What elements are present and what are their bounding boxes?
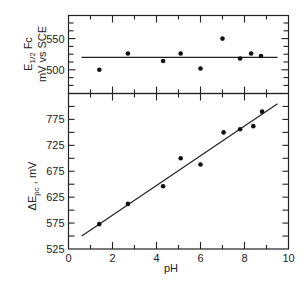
- data-point: [97, 222, 102, 227]
- data-point: [161, 184, 166, 189]
- bottom-ylabel-suffix: , mV: [26, 161, 38, 187]
- data-point: [259, 54, 264, 59]
- data-point: [198, 162, 203, 167]
- top-panel: 500550 E1/2 Fc mV vs SCE: [22, 16, 289, 94]
- top-panel-frame: [69, 16, 289, 94]
- bottom-y-tick-label: 625: [46, 191, 64, 203]
- bottom-y-tick-label: 675: [46, 165, 64, 177]
- bottom-y-tick-label: 725: [46, 139, 64, 151]
- data-point: [249, 51, 254, 56]
- bottom-fit-line: [82, 104, 278, 236]
- data-point: [126, 51, 131, 56]
- x-tick-label: 8: [241, 252, 247, 264]
- chart-figure: 500550 E1/2 Fc mV vs SCE 525575625675725…: [0, 0, 308, 290]
- bottom-y-axis-title: ΔEpc , mV: [26, 161, 41, 210]
- top-ylabel-suffix: Fc: [22, 37, 34, 53]
- bottom-panel: 525575625675725775 0246810 ΔEpc , mV pH: [26, 94, 295, 275]
- bottom-y-tick-label: 575: [46, 217, 64, 229]
- top-ylabel-E: E: [22, 64, 34, 71]
- data-point: [260, 109, 265, 114]
- top-data-points: [97, 36, 263, 72]
- data-point: [238, 56, 243, 61]
- x-tick-label: 10: [282, 252, 294, 264]
- top-y-tick-label: 500: [46, 64, 64, 76]
- top-ylabel-line2: mV vs SCE: [36, 26, 48, 82]
- data-point: [198, 66, 203, 71]
- x-tick-label: 4: [153, 252, 159, 264]
- data-point: [251, 124, 256, 129]
- data-point: [178, 156, 183, 161]
- data-point: [126, 202, 131, 207]
- x-axis-title: pH: [164, 262, 178, 274]
- bottom-y-tick-label: 525: [46, 243, 64, 255]
- top-y-tick-labels: 500550: [46, 33, 64, 76]
- data-point: [161, 59, 166, 64]
- x-tick-label: 0: [65, 252, 71, 264]
- top-y-tick-label: 550: [46, 33, 64, 45]
- top-y-axis-title: E1/2 Fc mV vs SCE: [22, 26, 48, 82]
- svg-text:ΔEpc , mV: ΔEpc , mV: [26, 161, 41, 210]
- top-panel-ticks: [69, 16, 289, 94]
- bottom-ylabel-sub: pc: [32, 187, 41, 195]
- data-point: [238, 127, 243, 132]
- x-tick-label: 6: [197, 252, 203, 264]
- data-point: [220, 36, 225, 41]
- x-tick-label: 2: [109, 252, 115, 264]
- svg-text:E1/2 Fc: E1/2 Fc: [22, 37, 37, 71]
- x-tick-labels: 0246810: [65, 252, 294, 264]
- data-point: [97, 67, 102, 72]
- bottom-ylabel-delta: ΔE: [26, 196, 38, 211]
- data-point: [221, 130, 226, 135]
- bottom-y-tick-labels: 525575625675725775: [46, 113, 64, 255]
- data-point: [178, 51, 183, 56]
- bottom-y-tick-label: 775: [46, 113, 64, 125]
